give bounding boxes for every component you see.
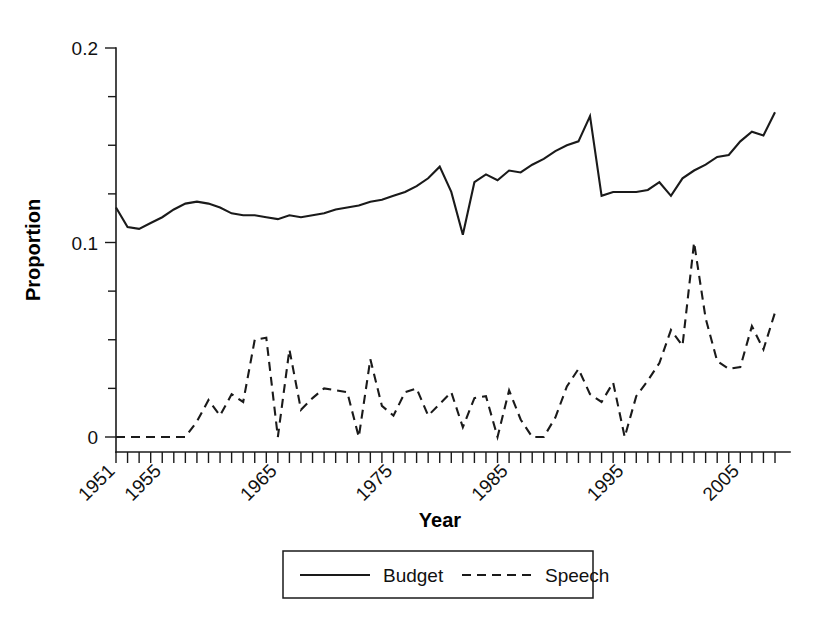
y-axis-title: Proportion (22, 199, 44, 301)
chart-legend: Budget Speech (283, 551, 609, 598)
x-tick-label: 1951 (74, 460, 119, 505)
y-axis-tick-labels: 00.10.2 (72, 38, 98, 448)
figure-container: 00.10.2 1951195519651975198519952005 Pro… (0, 0, 821, 627)
y-tick-label: 0.2 (72, 38, 98, 59)
x-axis-tick-labels: 1951195519651975198519952005 (74, 460, 743, 505)
line-chart: 00.10.2 1951195519651975198519952005 Pro… (0, 0, 821, 627)
x-tick-label: 1955 (120, 460, 165, 505)
x-tick-label: 1985 (467, 460, 512, 505)
x-axis-ticks (116, 452, 775, 463)
series-line-budget (116, 112, 775, 235)
x-tick-label: 1965 (236, 460, 281, 505)
y-tick-label: 0.1 (72, 233, 98, 254)
x-axis-title: Year (419, 509, 461, 531)
x-tick-label: 1975 (352, 460, 397, 505)
series-line-speech (116, 243, 775, 438)
y-axis-ticks (105, 48, 116, 437)
data-series-group (116, 112, 775, 437)
legend-label-speech: Speech (545, 565, 609, 586)
x-tick-label: 2005 (698, 460, 743, 505)
legend-label-budget: Budget (383, 565, 444, 586)
x-tick-label: 1995 (583, 460, 628, 505)
y-tick-label: 0 (87, 427, 98, 448)
